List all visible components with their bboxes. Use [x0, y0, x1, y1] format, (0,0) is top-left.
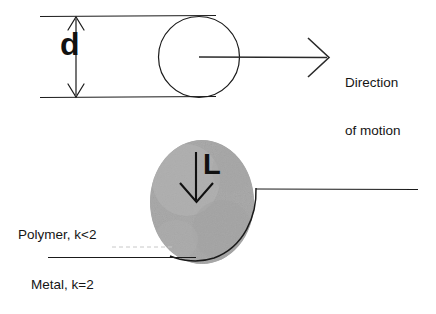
- top-diagram-group: [40, 16, 329, 98]
- metal-label: Metal, k=2: [31, 277, 94, 293]
- load-label: L: [203, 147, 221, 181]
- direction-of-motion-label: Direction of motion: [345, 43, 401, 170]
- direction-label-line1: Direction: [345, 75, 401, 91]
- diameter-label: d: [60, 26, 80, 64]
- channel-top-line: [40, 16, 216, 17]
- direction-label-line2: of motion: [345, 123, 401, 139]
- motion-arrow-shaft: [199, 57, 327, 58]
- figure-canvas: d Direction of motion L Polymer, k<2 Met…: [0, 0, 436, 314]
- polymer-surface-line: [256, 189, 418, 190]
- polymer-label: Polymer, k<2: [18, 227, 96, 243]
- droplet-blob-texture: [150, 140, 254, 264]
